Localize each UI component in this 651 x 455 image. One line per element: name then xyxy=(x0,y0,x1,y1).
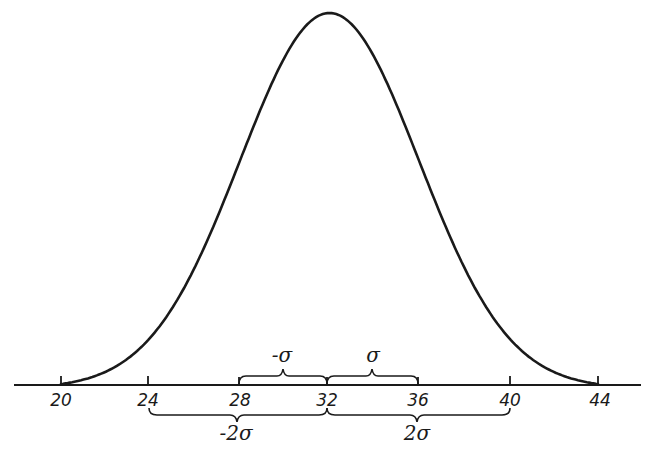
label-plus-sigma: σ xyxy=(366,343,381,367)
normal-distribution-figure: 20 24 28 32 36 40 44 -σ σ -2σ 2σ xyxy=(0,0,651,455)
axis-tick-labels: 20 24 28 32 36 40 44 xyxy=(50,390,611,410)
lower-braces xyxy=(149,408,510,422)
bell-curve xyxy=(61,13,598,384)
tick-label-20: 20 xyxy=(50,390,72,410)
tick-label-32: 32 xyxy=(316,390,338,410)
tick-label-28: 28 xyxy=(229,390,251,410)
tick-label-24: 24 xyxy=(137,390,159,410)
upper-braces xyxy=(239,369,418,384)
label-minus-two-sigma: -2σ xyxy=(219,421,253,445)
tick-label-44: 44 xyxy=(589,390,611,410)
tick-label-36: 36 xyxy=(407,390,429,410)
tick-label-40: 40 xyxy=(499,390,521,410)
brace-plus-two-sigma xyxy=(327,408,510,422)
label-plus-two-sigma: 2σ xyxy=(403,421,432,445)
brace-minus-two-sigma xyxy=(149,408,327,422)
brace-minus-sigma xyxy=(239,369,327,384)
label-minus-sigma: -σ xyxy=(272,343,294,367)
brace-plus-sigma xyxy=(327,369,418,384)
